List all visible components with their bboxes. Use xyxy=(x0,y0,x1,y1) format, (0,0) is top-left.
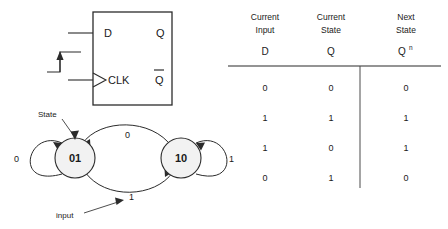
flip-flop-body xyxy=(93,12,172,105)
state-diagram-group: 0 0 1 1 01 10 State input xyxy=(14,110,234,220)
figure-canvas: D Q CLK Q 0 0 1 1 xyxy=(0,0,448,229)
state-node-01-label: 01 xyxy=(69,152,81,164)
table-row: 0 1 0 xyxy=(262,173,408,183)
table-header-1-line2: State xyxy=(321,25,341,35)
table-cell-qn: 0 xyxy=(403,83,408,93)
input-annotation-label: input xyxy=(56,211,74,220)
flip-flop-q-bar-label: Q xyxy=(155,74,164,86)
flip-flop-q-label: Q xyxy=(156,27,165,39)
self-loop-state-01-label: 0 xyxy=(14,154,19,164)
table-cell-q: 1 xyxy=(328,113,333,123)
table-cell-qn: 1 xyxy=(403,143,408,153)
table-cell-d: 0 xyxy=(262,173,267,183)
flip-flop-group: D Q CLK Q xyxy=(47,12,172,105)
table-header-2-line1: Next xyxy=(397,12,415,22)
table-header-2-symbol-superscript: n xyxy=(409,44,413,51)
table-row: 0 0 0 xyxy=(262,83,408,93)
flip-flop-d-label: D xyxy=(104,27,112,39)
table-header-2-line2: State xyxy=(396,25,416,35)
table-header-1-line1: Current xyxy=(317,12,346,22)
table-cell-d: 1 xyxy=(262,143,267,153)
input-annotation-arrow-head xyxy=(115,198,124,206)
digital-logic-figure: D Q CLK Q 0 0 1 1 xyxy=(0,0,448,229)
input-annotation-arrow-shaft xyxy=(84,202,118,213)
table-header-0-line2: Input xyxy=(256,25,276,35)
table-header-0-line1: Current xyxy=(251,12,280,22)
transition-10-to-01-label: 0 xyxy=(125,130,130,140)
truth-table-group: Current Input D Current State Q Next Sta… xyxy=(228,12,441,188)
clock-waveform xyxy=(47,52,81,72)
state-annotation-label: State xyxy=(38,110,57,119)
table-header-2-symbol: Q xyxy=(398,46,406,57)
table-cell-q: 0 xyxy=(328,83,333,93)
transition-01-to-10-label: 1 xyxy=(129,192,134,202)
table-row: 1 1 1 xyxy=(262,113,408,123)
self-loop-state-10-label: 1 xyxy=(229,154,234,164)
table-header-0-symbol: D xyxy=(261,46,268,57)
transition-01-to-10 xyxy=(85,172,173,192)
state-node-10-label: 10 xyxy=(175,152,187,164)
table-cell-q: 0 xyxy=(328,143,333,153)
table-row: 1 0 1 xyxy=(262,143,408,153)
table-header-1-symbol: Q xyxy=(327,46,335,57)
table-cell-d: 1 xyxy=(262,113,267,123)
flip-flop-clk-label: CLK xyxy=(108,74,130,86)
table-cell-qn: 1 xyxy=(403,113,408,123)
table-cell-q: 1 xyxy=(328,173,333,183)
table-cell-d: 0 xyxy=(262,83,267,93)
table-cell-qn: 0 xyxy=(403,173,408,183)
